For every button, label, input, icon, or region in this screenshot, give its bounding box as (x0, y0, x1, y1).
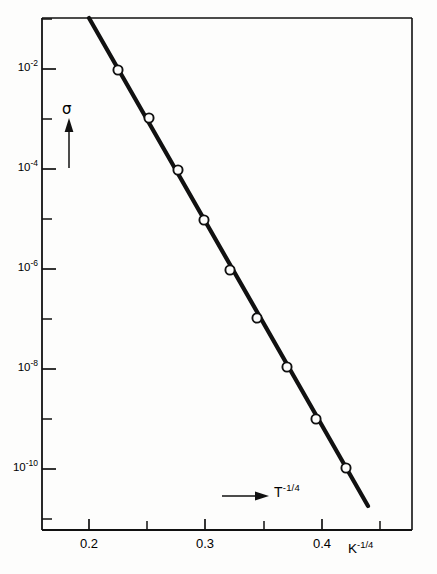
data-point (282, 362, 291, 371)
data-point (144, 113, 153, 122)
y-tick-label: 10-2 (6, 61, 38, 73)
y-axis-major-ticks (42, 69, 56, 469)
data-point (113, 65, 122, 74)
chart-canvas (0, 0, 437, 574)
y-tick-label: 10-8 (6, 361, 38, 373)
x-axis-label: T-1/4 (274, 484, 300, 500)
data-point (252, 313, 261, 322)
x-tick-label: 0.3 (185, 536, 225, 551)
sigma-axis-arrow-icon (65, 118, 74, 168)
x-tick-label: 0.2 (69, 536, 109, 551)
data-trend-line (89, 18, 368, 506)
figure-container: 10-2 10-4 10-6 10-8 10-10 0.2 0.3 0.4 σ … (0, 0, 437, 574)
x-tick-label: 0.4 (302, 536, 342, 551)
y-tick-label: 10-6 (6, 261, 38, 273)
t-axis-arrow-icon (222, 492, 269, 501)
y-axis-label: σ (62, 100, 72, 118)
data-point (199, 215, 208, 224)
y-tick-label: 10-4 (6, 161, 38, 173)
data-point (341, 463, 350, 472)
data-point (173, 165, 182, 174)
x-axis-minor-ticks (147, 521, 380, 530)
x-axis-major-ticks (89, 519, 322, 530)
data-point (225, 265, 234, 274)
data-point (311, 414, 320, 423)
x-axis-unit-label: K-1/4 (348, 541, 373, 556)
y-tick-label: 10-10 (2, 461, 38, 473)
